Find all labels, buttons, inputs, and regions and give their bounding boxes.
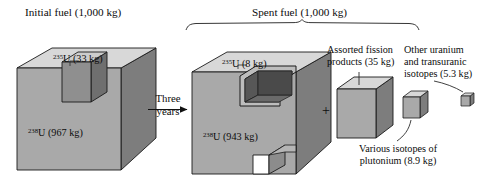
spent-u238-text: U (943 kg): [213, 131, 258, 142]
plutonium-cube: [397, 91, 428, 141]
plutonium-line1: Various isotopes of: [359, 143, 437, 154]
other-uranium-line1: Other uranium: [404, 44, 464, 55]
spent-fuel-bracket: [186, 20, 419, 31]
initial-fuel-block: [17, 48, 156, 170]
other-uranium-line2: and transuranic: [404, 56, 467, 67]
spent-fuel-title: Spent fuel (1,000 kg): [252, 6, 347, 19]
initial-u238-label: 238U (967 kg): [28, 127, 83, 139]
three-years-label: Three years: [151, 92, 185, 117]
fission-products-cube: [337, 72, 393, 138]
plutonium-label: Various isotopes of plutonium (8.9 kg): [338, 143, 458, 167]
spent-fuel-block: [192, 52, 331, 174]
spent-u235-text: U (8 kg): [232, 58, 267, 69]
spent-u235-isotope: 235: [222, 58, 232, 65]
plutonium-line2: plutonium (8.9 kg): [360, 155, 437, 166]
figure-root: Initial fuel (1,000 kg) Spent fuel (1,00…: [0, 0, 491, 194]
other-uranium-cube: [434, 81, 474, 106]
plus-operator: +: [322, 103, 330, 120]
fission-products-line1: Assorted fission: [327, 44, 393, 55]
initial-u238-isotope: 238: [28, 127, 38, 134]
other-uranium-line3: isotopes (5.3 kg): [404, 68, 472, 79]
initial-u235-isotope: 235: [53, 53, 63, 60]
fission-products-label: Assorted fission products (35 kg): [327, 44, 399, 68]
three-years-line1: Three: [151, 92, 185, 105]
initial-u235-label: 235U (33 kg): [53, 53, 103, 65]
fission-products-line2: products (35 kg): [327, 56, 394, 67]
spent-u235-label: 235U (8 kg): [222, 58, 267, 70]
initial-fuel-title: Initial fuel (1,000 kg): [25, 6, 121, 19]
spent-u238-isotope: 238: [203, 131, 213, 138]
initial-u235-text: U (33 kg): [63, 53, 103, 64]
other-uranium-label: Other uranium and transuranic isotopes (…: [404, 44, 488, 80]
three-years-line2: years: [151, 105, 185, 118]
spent-u238-label: 238U (943 kg): [203, 131, 258, 143]
initial-u238-text: U (967 kg): [38, 127, 83, 138]
